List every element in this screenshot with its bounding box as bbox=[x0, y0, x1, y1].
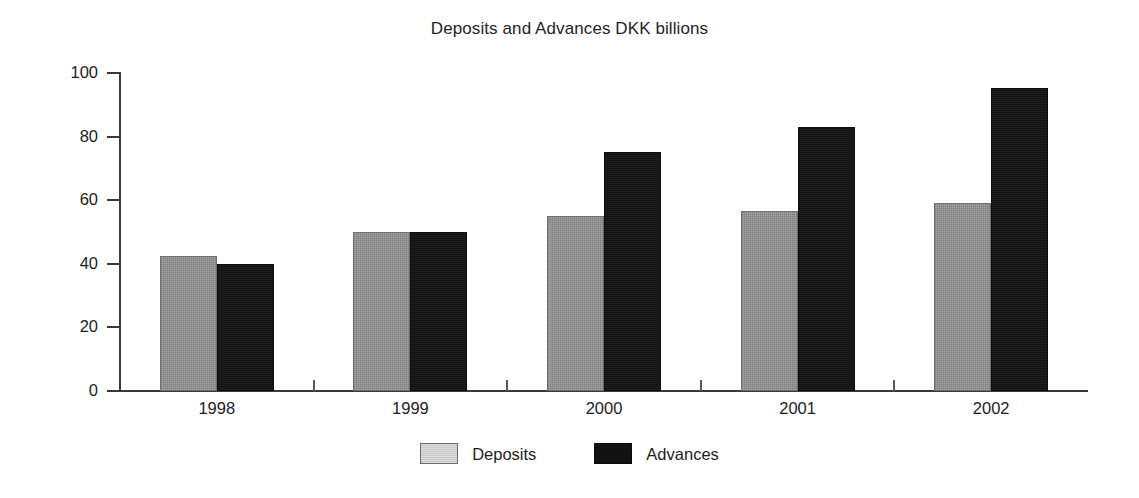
y-axis-label: 80 bbox=[38, 128, 98, 144]
advances-swatch bbox=[594, 443, 632, 464]
y-axis-tick bbox=[107, 390, 120, 392]
legend-entry-advances: Advances bbox=[594, 443, 718, 464]
bar-advances-1998 bbox=[217, 264, 274, 391]
y-axis-label: 60 bbox=[38, 191, 98, 207]
y-axis-label: 0 bbox=[38, 382, 98, 398]
plot-area bbox=[120, 73, 1088, 391]
x-axis-label-2001: 2001 bbox=[728, 398, 868, 418]
y-axis-tick bbox=[107, 136, 120, 138]
x-axis-label-1998: 1998 bbox=[147, 398, 287, 418]
x-axis-label-2000: 2000 bbox=[534, 398, 674, 418]
bar-deposits-2002 bbox=[934, 203, 991, 391]
x-axis-tick bbox=[506, 380, 508, 391]
x-axis-tick bbox=[893, 380, 895, 391]
bar-deposits-2001 bbox=[741, 211, 798, 391]
bar-deposits-2000 bbox=[547, 216, 604, 391]
bar-advances-1999 bbox=[410, 232, 467, 391]
bar-advances-2000 bbox=[604, 152, 661, 391]
y-axis-tick bbox=[107, 326, 120, 328]
y-axis-label: 20 bbox=[38, 318, 98, 334]
bar-advances-2001 bbox=[798, 127, 855, 391]
y-axis-label: 100 bbox=[38, 64, 98, 80]
legend-label-deposits: Deposits bbox=[472, 445, 536, 463]
bar-advances-2002 bbox=[991, 88, 1048, 391]
y-axis-label: 40 bbox=[38, 255, 98, 271]
bar-deposits-1999 bbox=[353, 232, 410, 391]
chart-legend: DepositsAdvances bbox=[0, 443, 1139, 464]
bar-chart-figure: Deposits and Advances DKK billions 02040… bbox=[0, 0, 1139, 498]
y-axis-tick bbox=[107, 199, 120, 201]
x-axis-tick bbox=[700, 380, 702, 391]
x-axis-label-1999: 1999 bbox=[340, 398, 480, 418]
bar-deposits-1998 bbox=[160, 256, 217, 391]
x-axis-tick bbox=[313, 380, 315, 391]
y-axis-tick bbox=[107, 72, 120, 74]
legend-label-advances: Advances bbox=[646, 445, 718, 463]
x-axis-label-2002: 2002 bbox=[921, 398, 1061, 418]
deposits-swatch bbox=[420, 443, 458, 464]
legend-entry-deposits: Deposits bbox=[420, 443, 536, 464]
y-axis-tick bbox=[107, 263, 120, 265]
chart-title: Deposits and Advances DKK billions bbox=[0, 18, 1139, 40]
